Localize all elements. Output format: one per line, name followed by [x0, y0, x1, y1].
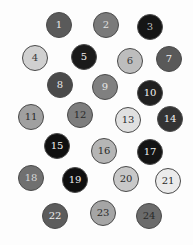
numbered-circle: 9 — [92, 74, 118, 100]
numbered-circle: 1 — [46, 12, 72, 38]
numbered-circle: 5 — [71, 44, 97, 70]
numbered-circle: 16 — [91, 138, 117, 164]
numbered-circle: 19 — [62, 167, 88, 193]
numbered-circle: 8 — [47, 72, 73, 98]
numbered-circle: 17 — [137, 139, 163, 165]
numbered-circle: 12 — [67, 102, 93, 128]
numbered-circle: 22 — [42, 203, 68, 229]
numbered-circle: 14 — [157, 106, 183, 132]
circles-diagram: 123456789101112131415161718192021222324 — [0, 0, 193, 245]
numbered-circle: 20 — [113, 166, 139, 192]
numbered-circle: 11 — [18, 104, 44, 130]
numbered-circle: 6 — [117, 48, 143, 74]
numbered-circle: 15 — [44, 133, 70, 159]
numbered-circle: 23 — [90, 200, 116, 226]
numbered-circle: 3 — [137, 14, 163, 40]
numbered-circle: 24 — [136, 203, 162, 229]
numbered-circle: 4 — [22, 45, 48, 71]
numbered-circle: 7 — [156, 46, 182, 72]
numbered-circle: 18 — [18, 165, 44, 191]
numbered-circle: 13 — [115, 107, 141, 133]
numbered-circle: 2 — [93, 12, 119, 38]
numbered-circle: 10 — [137, 80, 163, 106]
numbered-circle: 21 — [155, 168, 181, 194]
